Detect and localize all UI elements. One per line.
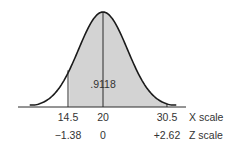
- shaded-area: [69, 12, 167, 107]
- area-label: .9118: [90, 78, 116, 90]
- x-tick-mean: 20: [97, 111, 109, 123]
- z-tick-left: −1.38: [55, 129, 82, 141]
- normal-curve-chart: [0, 0, 234, 149]
- x-tick-right: 30.5: [157, 111, 177, 123]
- z-scale-label: Z scale: [189, 129, 223, 141]
- x-scale-label: X scale: [189, 111, 223, 123]
- z-tick-right: +2.62: [154, 129, 181, 141]
- x-tick-left: 14.5: [58, 111, 78, 123]
- z-tick-mean: 0: [100, 129, 106, 141]
